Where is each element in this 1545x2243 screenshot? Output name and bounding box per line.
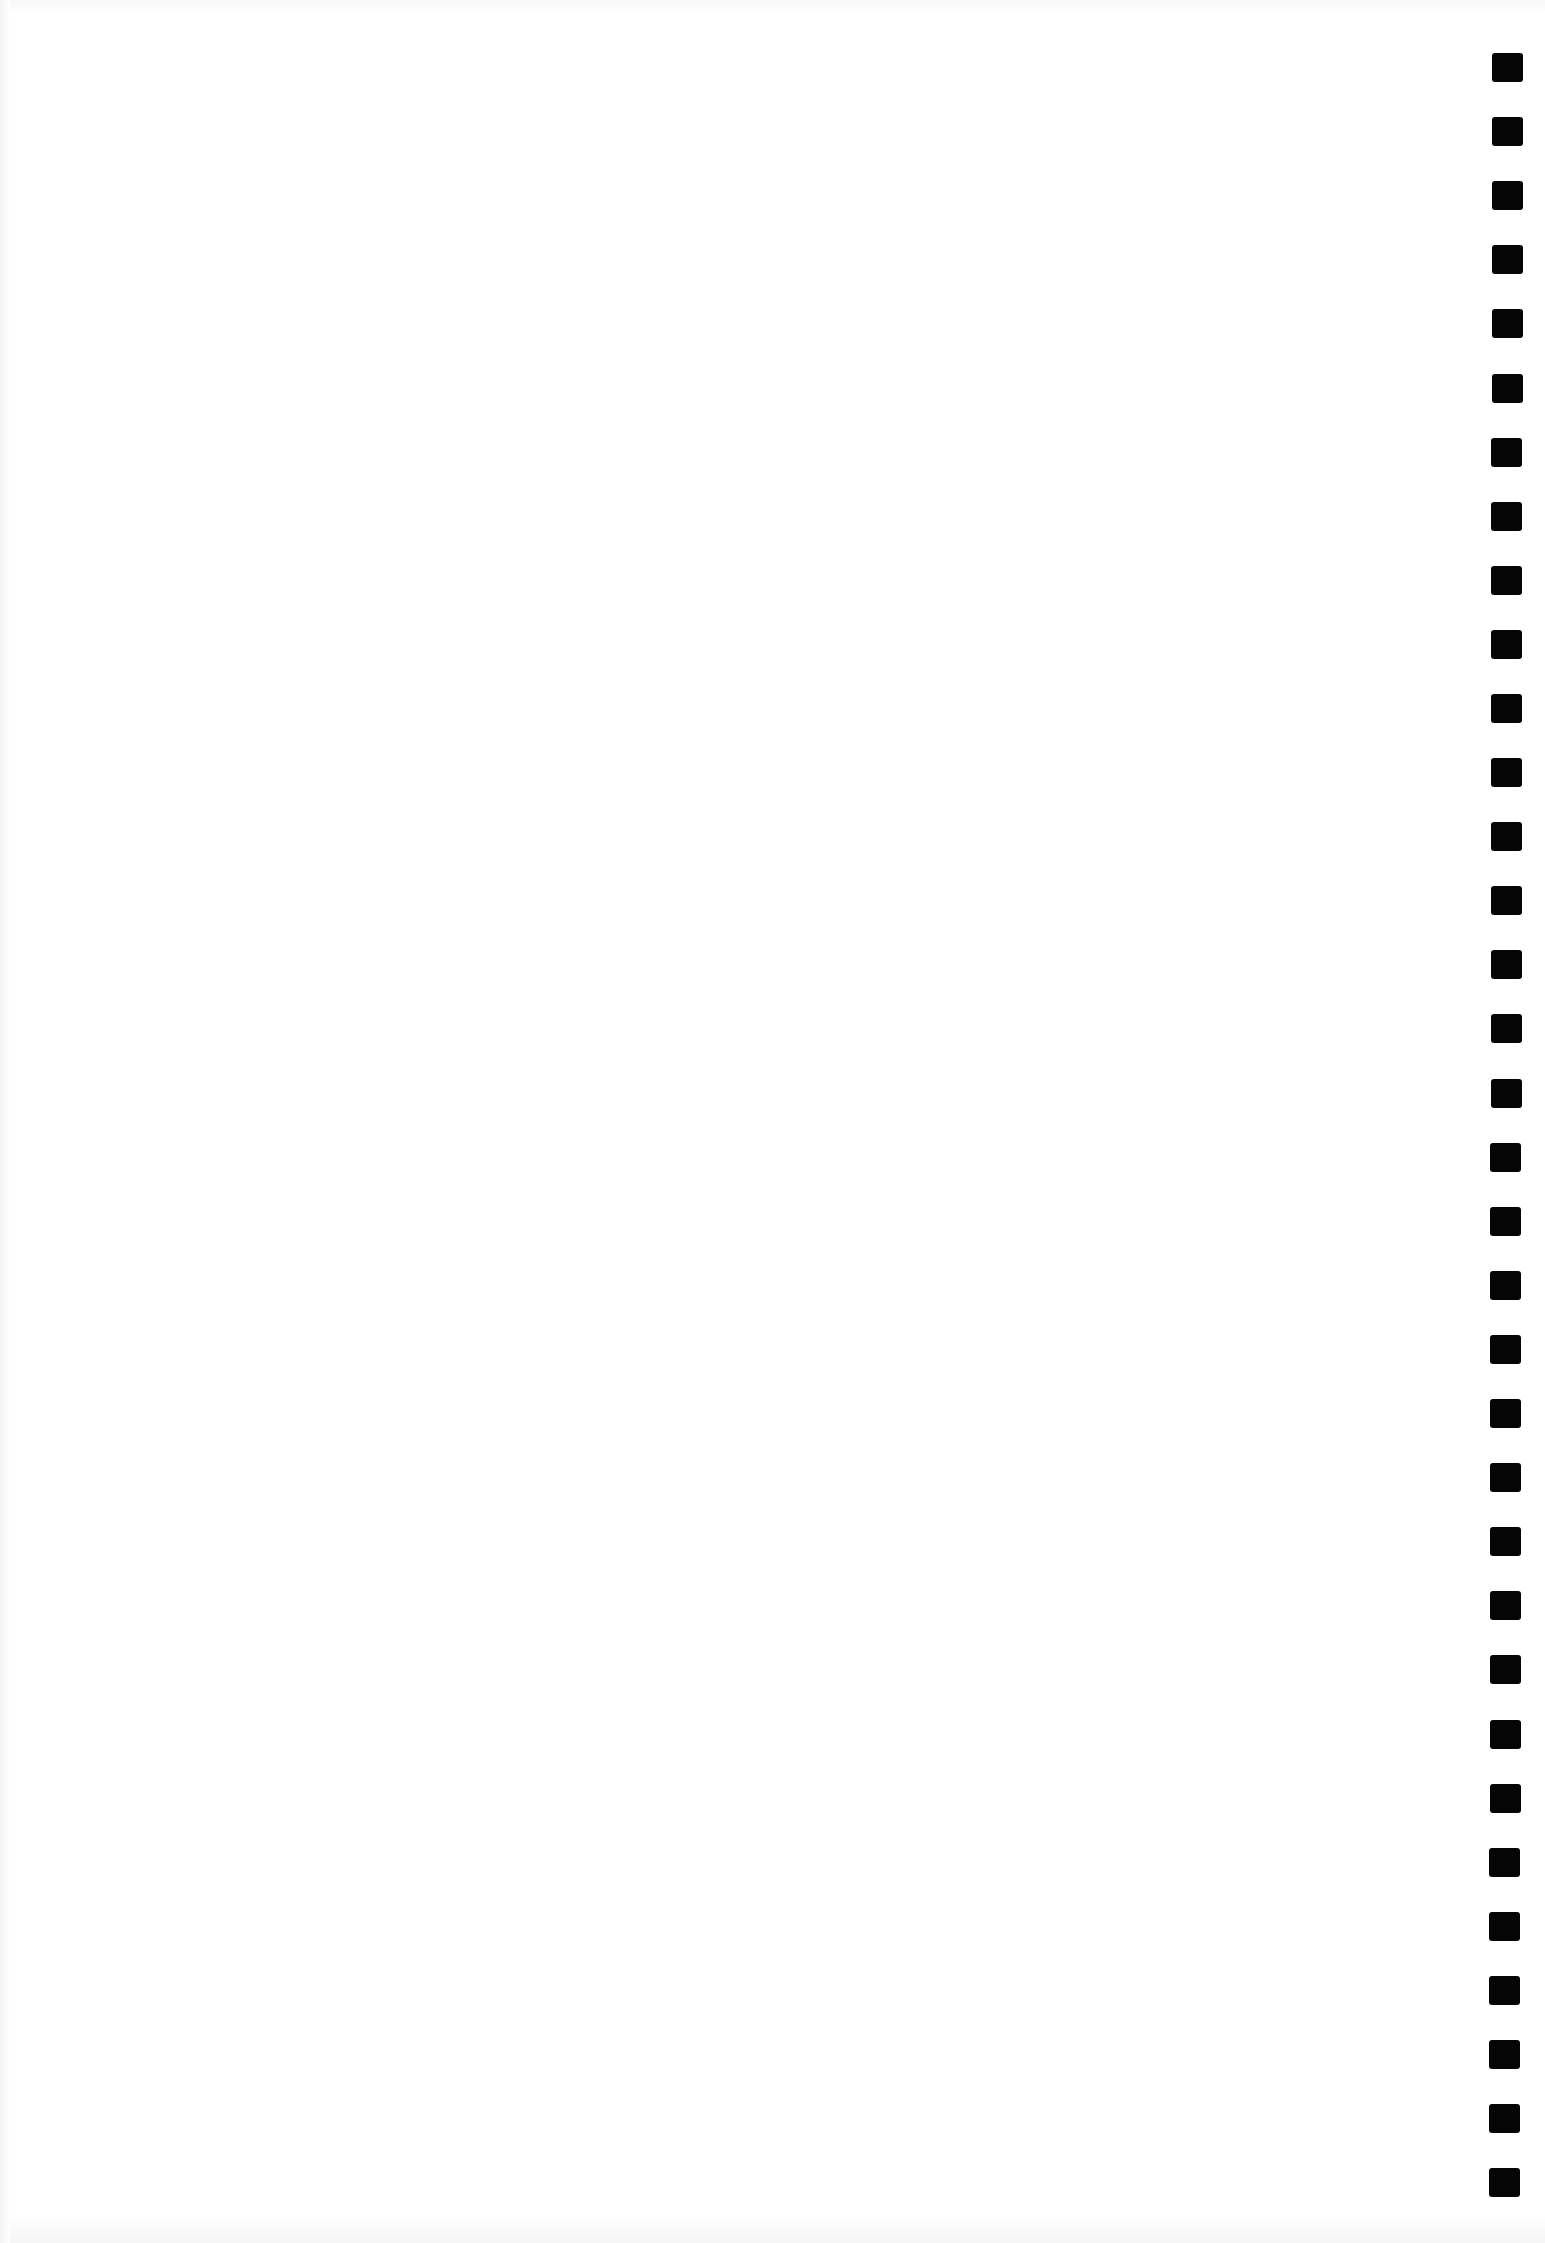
timing-mark <box>1490 1143 1521 1172</box>
timing-mark <box>1492 309 1523 338</box>
timing-mark <box>1491 566 1522 595</box>
timing-mark <box>1491 630 1522 659</box>
timing-mark <box>1491 886 1522 915</box>
blank-page <box>0 0 1545 2243</box>
timing-mark <box>1491 758 1522 787</box>
timing-mark <box>1491 950 1522 979</box>
timing-mark <box>1491 822 1522 851</box>
timing-mark <box>1489 2104 1520 2133</box>
timing-mark <box>1492 245 1523 274</box>
timing-mark <box>1490 1591 1521 1620</box>
timing-mark <box>1491 1079 1522 1108</box>
timing-mark <box>1490 1335 1521 1364</box>
timing-mark <box>1490 1720 1521 1749</box>
timing-mark <box>1491 502 1522 531</box>
timing-mark <box>1490 1207 1521 1236</box>
timing-mark <box>1489 1976 1520 2005</box>
timing-mark <box>1490 1655 1521 1684</box>
timing-mark <box>1492 53 1523 82</box>
timing-mark <box>1490 1399 1521 1428</box>
timing-mark-column <box>1489 0 1523 2243</box>
timing-mark <box>1492 181 1523 210</box>
timing-mark <box>1490 1463 1521 1492</box>
timing-mark <box>1489 2168 1520 2197</box>
timing-mark <box>1491 694 1522 723</box>
timing-mark <box>1490 1271 1521 1300</box>
timing-mark <box>1489 2040 1520 2069</box>
timing-mark <box>1490 1527 1521 1556</box>
timing-mark <box>1490 1784 1521 1813</box>
timing-mark <box>1489 1848 1520 1877</box>
timing-mark <box>1492 374 1523 403</box>
timing-mark <box>1489 1912 1520 1941</box>
timing-mark <box>1492 117 1523 146</box>
timing-mark <box>1491 1014 1522 1043</box>
timing-mark <box>1491 438 1522 467</box>
